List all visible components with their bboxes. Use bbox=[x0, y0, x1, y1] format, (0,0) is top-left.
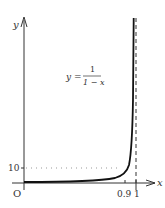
x-tick-label-1: 1 bbox=[134, 189, 140, 199]
equation-denominator: 1 − x bbox=[83, 78, 105, 87]
equation-lhs: y = bbox=[65, 72, 82, 82]
curve bbox=[24, 18, 134, 182]
y-axis-label: y bbox=[12, 19, 19, 30]
chart: y x O 10 0.9 1 y = 1 1 − x bbox=[0, 0, 165, 208]
y-tick-label: 10 bbox=[8, 163, 20, 173]
origin-label: O bbox=[13, 188, 21, 199]
x-tick-label-0.9: 0.9 bbox=[117, 189, 132, 199]
equation-numerator: 1 bbox=[90, 65, 95, 74]
x-axis-label: x bbox=[157, 177, 163, 188]
